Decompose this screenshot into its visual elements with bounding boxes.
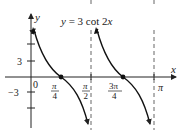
x-tick-3pi-over-4-label: 3π 4 [108,81,122,101]
zero-point-pi-over-4 [59,75,64,80]
cotangent-graph: y = 3 cot 2x y x 0 3 −3 π 4 π 2 3π 4 π [0,0,186,135]
svg-text:3π: 3π [109,81,119,91]
svg-text:2: 2 [84,91,89,101]
arrowhead-up [31,27,36,34]
arrowhead-up [94,27,99,34]
zero-point-3pi-over-4 [121,75,126,80]
y-tick-neg3-label: −3 [8,87,19,98]
svg-text:4: 4 [112,91,117,101]
x-tick-pi-over-4-label: π 4 [51,81,59,101]
x-axis-label: x [170,63,176,75]
x-tick-pi-label: π [158,82,164,93]
origin-label: 0 [33,79,38,90]
svg-text:π: π [52,81,57,91]
svg-text:4: 4 [53,91,58,101]
svg-text:π: π [83,81,88,91]
y-tick-3-label: 3 [17,56,22,67]
graph-title: y = 3 cot 2x [60,15,113,27]
x-tick-pi-over-2-label: π 2 [82,81,90,101]
y-axis-label: y [34,11,40,23]
